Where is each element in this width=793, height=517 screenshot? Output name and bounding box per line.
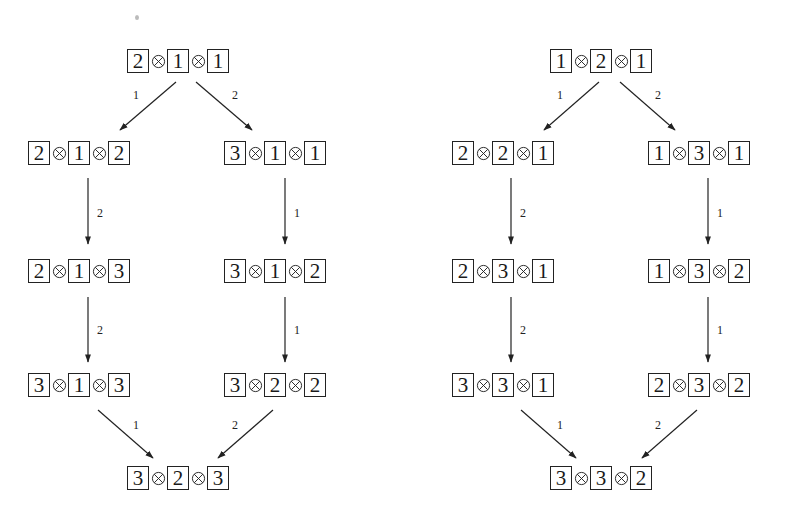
tableau-box: 1 [532, 373, 554, 397]
tableau-box: 2 [304, 373, 326, 397]
tableau-box: 1 [648, 141, 670, 165]
otimes-icon [246, 144, 264, 162]
edge-label: 1 [717, 206, 723, 221]
otimes-icon [286, 262, 304, 280]
otimes-icon [514, 262, 532, 280]
edge-label: 2 [520, 323, 526, 338]
tensor-node-L2a: 213 [28, 258, 130, 284]
otimes-icon [710, 376, 728, 394]
tableau-box: 3 [207, 466, 229, 490]
arrow-L3b-L4 [218, 410, 273, 458]
otimes-icon [50, 376, 68, 394]
edge-label: 1 [133, 88, 139, 103]
edge-label: 1 [557, 88, 563, 103]
otimes-icon [90, 144, 108, 162]
otimes-icon [474, 144, 492, 162]
edge-label: 2 [97, 323, 103, 338]
tableau-box: 1 [728, 141, 750, 165]
tensor-node-R1a: 221 [452, 140, 554, 166]
otimes-icon [286, 376, 304, 394]
edge-label: 2 [655, 418, 661, 433]
tensor-node-R4: 332 [550, 465, 652, 491]
tableau-box: 2 [492, 141, 514, 165]
tableau-box: 2 [728, 373, 750, 397]
tableau-box: 3 [108, 259, 130, 283]
tableau-box: 2 [452, 259, 474, 283]
tableau-box: 3 [224, 373, 246, 397]
tableau-box: 1 [532, 141, 554, 165]
otimes-icon [514, 144, 532, 162]
tensor-node-L4: 323 [127, 465, 229, 491]
tableau-box: 2 [648, 373, 670, 397]
arrow-R3b-R4 [642, 410, 697, 458]
otimes-icon [286, 144, 304, 162]
tableau-box: 3 [492, 259, 514, 283]
otimes-icon [612, 469, 630, 487]
tensor-node-R1b: 131 [648, 140, 750, 166]
otimes-icon [514, 376, 532, 394]
tableau-box: 3 [688, 141, 710, 165]
otimes-icon [149, 469, 167, 487]
tensor-node-L2b: 312 [224, 258, 326, 284]
edge-label: 1 [294, 323, 300, 338]
tableau-box: 3 [452, 373, 474, 397]
otimes-icon [246, 376, 264, 394]
tableau-box: 1 [550, 49, 572, 73]
otimes-icon [710, 262, 728, 280]
tableau-box: 3 [224, 259, 246, 283]
tableau-box: 3 [127, 466, 149, 490]
tableau-box: 3 [590, 466, 612, 490]
tableau-box: 2 [452, 141, 474, 165]
tableau-box: 1 [648, 259, 670, 283]
tableau-box: 1 [630, 49, 652, 73]
tensor-node-R0: 121 [550, 48, 652, 74]
otimes-icon [90, 376, 108, 394]
otimes-icon [50, 144, 68, 162]
tensor-node-R2a: 231 [452, 258, 554, 284]
tableau-box: 2 [167, 466, 189, 490]
otimes-icon [572, 52, 590, 70]
arrow-L3a-L4 [98, 410, 153, 458]
tableau-box: 2 [304, 259, 326, 283]
edge-label: 2 [520, 206, 526, 221]
tableau-box: 1 [68, 259, 90, 283]
tableau-box: 2 [728, 259, 750, 283]
arrow-L0-L1a [120, 82, 176, 130]
edge-label: 1 [133, 418, 139, 433]
tableau-box: 2 [28, 141, 50, 165]
tableau-box: 1 [68, 373, 90, 397]
tableau-box: 1 [264, 141, 286, 165]
tableau-box: 2 [630, 466, 652, 490]
tableau-box: 3 [28, 373, 50, 397]
otimes-icon [246, 262, 264, 280]
otimes-icon [670, 262, 688, 280]
edge-label: 2 [232, 88, 238, 103]
tensor-node-L3b: 322 [224, 372, 326, 398]
tableau-box: 3 [224, 141, 246, 165]
tableau-box: 2 [590, 49, 612, 73]
tableau-box: 3 [550, 466, 572, 490]
otimes-icon [90, 262, 108, 280]
tensor-node-L1b: 311 [224, 140, 326, 166]
tableau-box: 3 [688, 259, 710, 283]
otimes-icon [474, 262, 492, 280]
otimes-icon [474, 376, 492, 394]
tensor-node-L1a: 212 [28, 140, 130, 166]
edge-label: 2 [655, 88, 661, 103]
otimes-icon [50, 262, 68, 280]
edge-label: 1 [717, 323, 723, 338]
otimes-icon [612, 52, 630, 70]
tableau-box: 1 [167, 49, 189, 73]
otimes-icon [670, 376, 688, 394]
tableau-box: 2 [264, 373, 286, 397]
tensor-node-R2b: 132 [648, 258, 750, 284]
arrow-L0-L1b [196, 82, 252, 130]
tensor-node-L3a: 313 [28, 372, 130, 398]
tableau-box: 1 [264, 259, 286, 283]
tableau-box: 1 [207, 49, 229, 73]
otimes-icon [149, 52, 167, 70]
tensor-node-L0: 211 [127, 48, 229, 74]
tableau-box: 3 [108, 373, 130, 397]
tensor-node-R3b: 232 [648, 372, 750, 398]
tableau-box: 3 [492, 373, 514, 397]
